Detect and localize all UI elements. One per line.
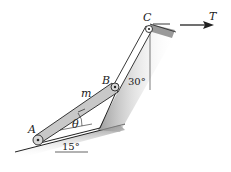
label-b: B [101, 74, 110, 87]
label-a: A [27, 123, 36, 136]
pin-b [111, 83, 119, 91]
label-m: m [81, 87, 91, 100]
label-angle-15: 15° [62, 141, 80, 152]
label-t: T [209, 10, 218, 23]
linkage-diagram: C T B m A θ 30° 15° [0, 0, 231, 172]
label-c: C [143, 11, 152, 24]
label-angle-30: 30° [128, 76, 146, 87]
label-theta: θ [72, 118, 79, 131]
pin-a [33, 135, 43, 145]
pin-c [146, 26, 153, 33]
